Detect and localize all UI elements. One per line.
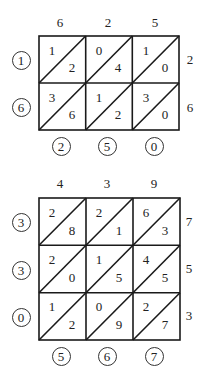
cell-ones: 9	[112, 318, 126, 331]
cell-tens: 1	[45, 300, 59, 313]
lattice-diagram-1: 6 2 5 2 6 1 6 2 5 0 1 2 0 4 1 0 3 6 1 2 …	[0, 0, 206, 180]
result-digit-circled: 5	[52, 347, 71, 366]
carry-digit-circled: 3	[12, 213, 31, 232]
top-digit: 2	[101, 16, 115, 29]
cell-tens: 1	[45, 44, 59, 57]
cell-tens: 4	[139, 253, 153, 266]
cell-ones: 2	[65, 61, 79, 74]
top-digit: 3	[100, 177, 114, 190]
cell-ones: 2	[65, 318, 79, 331]
right-digit: 3	[182, 309, 196, 322]
cell-ones: 1	[112, 224, 126, 237]
cell-ones: 5	[158, 271, 172, 284]
result-digit-circled: 6	[98, 347, 117, 366]
cell-ones: 7	[158, 318, 172, 331]
cell-tens: 0	[92, 44, 106, 57]
cell-ones: 3	[158, 224, 172, 237]
cell-ones: 2	[111, 108, 125, 121]
cell-tens: 2	[139, 300, 153, 313]
cell-tens: 1	[92, 253, 106, 266]
result-digit-circled: 5	[98, 137, 117, 156]
top-digit: 4	[53, 177, 67, 190]
cell-tens: 2	[45, 253, 59, 266]
right-digit: 6	[183, 101, 197, 114]
carry-digit-circled: 6	[12, 98, 31, 117]
top-digit: 5	[148, 16, 162, 29]
top-digit: 6	[53, 16, 67, 29]
result-digit-circled: 7	[145, 347, 164, 366]
cell-tens: 6	[139, 206, 153, 219]
right-digit: 5	[182, 262, 196, 275]
top-digit: 9	[147, 177, 161, 190]
result-digit-circled: 2	[52, 137, 71, 156]
cell-ones: 0	[65, 271, 79, 284]
cell-tens: 0	[92, 300, 106, 313]
cell-ones: 0	[158, 61, 172, 74]
cell-tens: 1	[92, 91, 106, 104]
right-digit: 2	[183, 53, 197, 66]
cell-ones: 5	[112, 271, 126, 284]
carry-digit-circled: 3	[12, 261, 31, 280]
cell-tens: 3	[45, 91, 59, 104]
cell-tens: 1	[139, 44, 153, 57]
cell-ones: 8	[65, 224, 79, 237]
carry-digit-circled: 1	[12, 51, 31, 70]
lattice-diagram-2: 4 3 9 7 5 3 3 3 0 5 6 7 2 8 2 1 6 3 2 0 …	[0, 175, 206, 377]
cell-ones: 4	[111, 61, 125, 74]
carry-digit-circled: 0	[12, 308, 31, 327]
cell-ones: 6	[65, 108, 79, 121]
cell-tens: 2	[92, 206, 106, 219]
cell-ones: 0	[158, 108, 172, 121]
right-digit: 7	[182, 215, 196, 228]
cell-tens: 2	[45, 206, 59, 219]
result-digit-circled: 0	[145, 137, 164, 156]
cell-tens: 3	[139, 91, 153, 104]
